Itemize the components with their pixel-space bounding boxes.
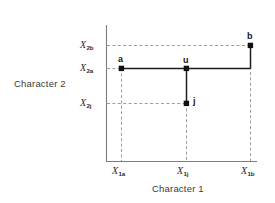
data-point-marker-j[interactable] [184,101,189,106]
data-point-label-u: u [183,55,189,65]
x-tick-label-x1j: X1j [177,165,188,176]
y-tick-label-x2j: X2j [80,97,91,108]
x-axis-title: Character 1 [152,183,204,194]
data-point-label-j: j [193,96,196,106]
x-tick-label-x1b: X1b [241,165,254,176]
plot-canvas [0,0,275,203]
y-tick-label-x2b: X2b [80,39,93,50]
data-point-marker-a[interactable] [119,66,124,71]
data-point-label-b: b [247,31,253,41]
x-tick-label-x1a: X1a [112,165,125,176]
data-point-marker-u[interactable] [184,66,189,71]
data-point-marker-b[interactable] [248,43,253,48]
data-point-label-a: a [118,54,123,64]
scatter-plot-figure: X2b X2a X2j X1a X1j X1b a u j b Characte… [0,0,275,203]
y-axis-title: Character 2 [14,78,66,89]
y-tick-label-x2a: X2a [80,62,93,73]
